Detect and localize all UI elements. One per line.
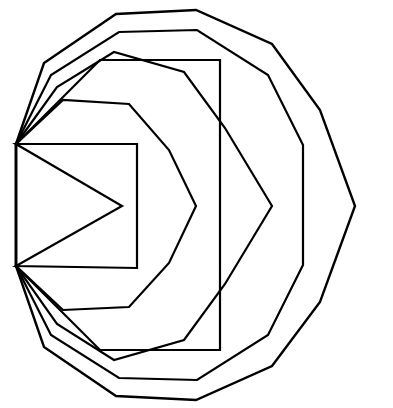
figure-background — [0, 0, 393, 408]
nested-polygon-figure — [0, 0, 393, 408]
figure-canvas — [0, 0, 393, 408]
